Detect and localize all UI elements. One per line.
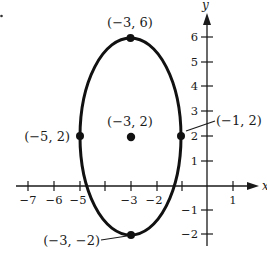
y-tick-label: 5 [191,55,198,69]
x-tick-label: −7 [20,193,37,207]
x-tick-label: −6 [46,193,63,207]
points [76,34,185,239]
x-tick-label: −5 [70,193,87,207]
bottom-vertex-label: (−3, −2) [43,233,100,248]
top-vertex-label: (−3, 6) [107,15,153,30]
bottom-vertex-leader-line [101,236,127,240]
y-axis-arrow-icon [203,13,211,25]
scan-speck [0,15,3,18]
y-tick-label: −2 [181,227,198,241]
right-vertex-label: (−1, 2) [216,113,262,128]
y-tick-label: 2 [191,129,198,143]
right-vertex-leader-line [186,121,215,131]
y-tick-label: 3 [191,104,198,118]
left-vertex-point [76,132,84,140]
x-tick-label: −2 [146,193,163,207]
chart-canvas: x y −7 −6 −5 −3 −2 1 6 5 4 3 2 1 −1 [0,0,267,257]
y-tick-label: 4 [191,79,198,93]
bottom-vertex-point [127,231,135,239]
x-tick-labels: −7 −6 −5 −3 −2 1 [20,193,237,207]
x-axis-arrow-icon [247,182,259,190]
ellipse-figure: x y −7 −6 −5 −3 −2 1 6 5 4 3 2 1 −1 [0,0,267,257]
y-tick-label: 6 [191,30,198,44]
x-tick-label: 1 [229,193,236,207]
x-tick-label: −3 [121,193,138,207]
y-tick-label: 1 [191,154,198,168]
x-axis: x [16,179,267,193]
left-vertex-label: (−5, 2) [24,129,70,144]
y-axis: y [201,0,213,246]
y-tick-label: −1 [181,203,198,217]
x-axis-label: x [262,179,267,193]
top-vertex-point [127,34,135,42]
center-point [127,133,135,141]
y-axis-label: y [201,0,209,12]
right-vertex-point [177,132,185,140]
center-label: (−3, 2) [107,114,153,129]
